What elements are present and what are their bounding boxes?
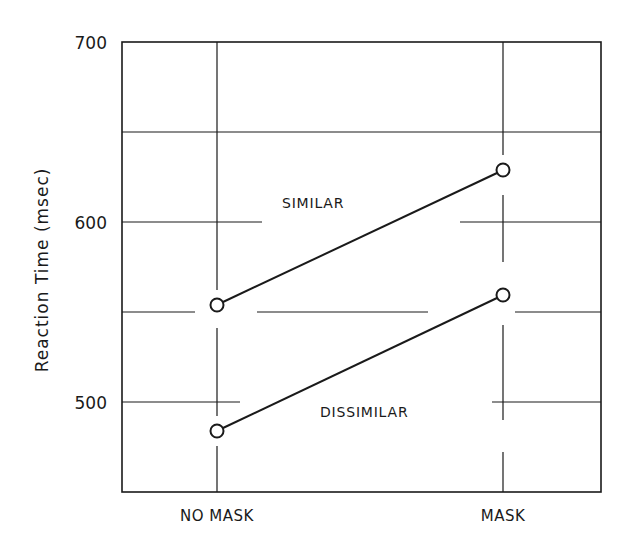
y-tick-500: 500 [75, 393, 107, 413]
y-axis-label: Reaction Time (msec) [32, 168, 52, 373]
marker-dissimilar-no-mask [211, 425, 224, 438]
gridlines [122, 42, 601, 492]
y-tick-600: 600 [75, 213, 107, 233]
marker-similar-mask [497, 164, 510, 177]
y-tick-700: 700 [75, 33, 107, 53]
series-similar-line [223, 173, 497, 302]
series-label-similar: SIMILAR [282, 195, 344, 211]
marker-dissimilar-mask [497, 289, 510, 302]
series-label-dissimilar: DISSIMILAR [320, 404, 408, 420]
x-tick-mask: MASK [481, 507, 526, 525]
plot-frame [122, 42, 601, 492]
marker-similar-no-mask [211, 299, 224, 312]
x-tick-no-mask: NO MASK [180, 507, 255, 525]
chart: 700 600 500 Reaction Time (msec) NO MASK… [0, 0, 624, 547]
